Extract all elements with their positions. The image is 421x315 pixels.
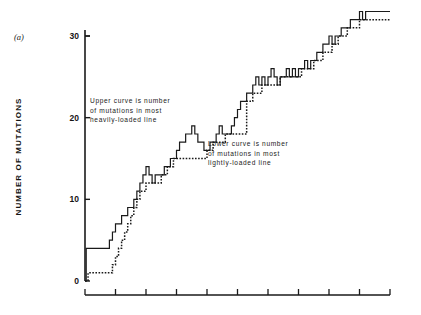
y-tick-label: 0 (55, 276, 79, 286)
y-tick-label: 30 (55, 31, 79, 41)
annotation-lower-curve: Lower curve is number of mutations in mo… (208, 139, 288, 168)
y-tick-label: 20 (55, 113, 79, 123)
y-tick-label: 10 (55, 194, 79, 204)
figure-panel: (a) NUMBER OF MUTATIONS 0102030 Upper cu… (0, 0, 421, 315)
panel-label: (a) (14, 32, 24, 42)
annotation-upper-curve: Upper curve is number of mutations in mo… (90, 96, 170, 125)
y-axis-title: NUMBER OF MUTATIONS (14, 77, 23, 237)
